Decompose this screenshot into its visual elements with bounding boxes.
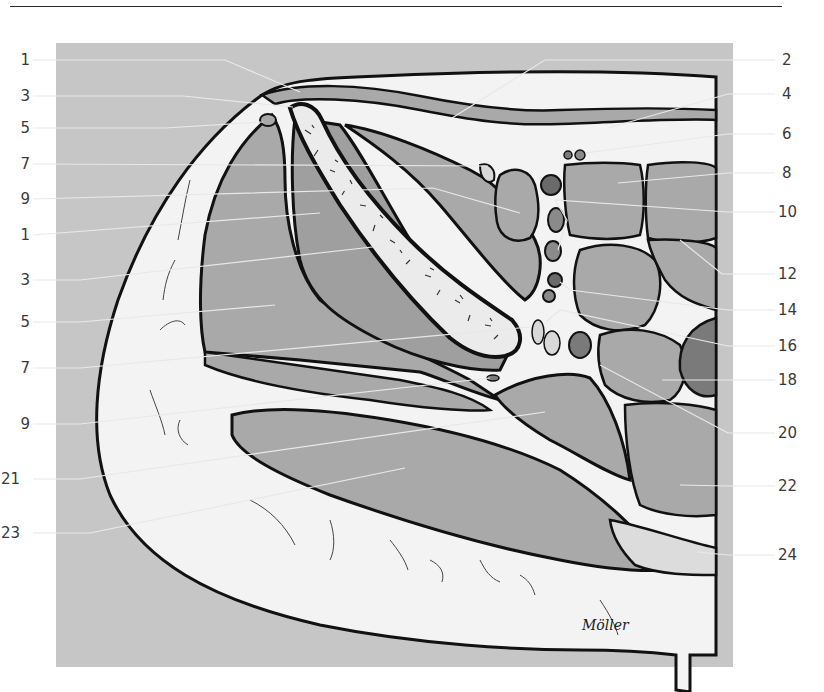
anatomical-figure: Möller: [0, 0, 824, 692]
vessel-10c: [545, 241, 561, 261]
label-right-0: 2: [782, 52, 822, 68]
label-left-2: 5: [4, 120, 30, 136]
label-right-5: 12: [778, 266, 818, 282]
label-right-6: 14: [778, 302, 818, 318]
vessel-14b: [543, 290, 555, 302]
vessel-10a: [541, 175, 561, 195]
label-left-10: 21: [0, 471, 20, 487]
label-right-3: 8: [782, 165, 822, 181]
label-right-10: 22: [778, 478, 818, 494]
structure-5: [260, 114, 276, 126]
label-left-4: 9: [4, 191, 30, 207]
vessel-16: [569, 332, 591, 358]
label-left-7: 5: [4, 314, 30, 330]
label-left-9: 9: [4, 416, 30, 432]
vessel-14a: [548, 273, 562, 287]
label-left-5: 1: [4, 227, 30, 243]
vessel-6b: [575, 150, 585, 160]
muscle-8: [564, 163, 644, 239]
structure-17a: [532, 320, 544, 344]
artist-signature: Möller: [581, 617, 630, 633]
muscle-9-box: [495, 170, 538, 241]
vessel-6a: [564, 151, 572, 159]
label-right-8: 18: [778, 372, 818, 388]
muscle-16-group: [598, 330, 685, 402]
muscle-12a: [574, 245, 660, 330]
label-right-11: 24: [778, 547, 818, 563]
label-left-3: 7: [4, 156, 30, 172]
structure-17b: [544, 331, 560, 355]
label-left-1: 3: [4, 88, 30, 104]
label-right-7: 16: [778, 338, 818, 354]
label-left-0: 1: [4, 52, 30, 68]
label-left-8: 7: [4, 360, 30, 376]
label-right-1: 4: [782, 86, 822, 102]
label-left-6: 3: [4, 272, 30, 288]
label-right-4: 10: [778, 204, 818, 220]
label-right-9: 20: [778, 425, 818, 441]
label-right-2: 6: [782, 126, 822, 142]
muscle-8b: [646, 162, 716, 242]
label-left-11: 23: [0, 525, 20, 541]
